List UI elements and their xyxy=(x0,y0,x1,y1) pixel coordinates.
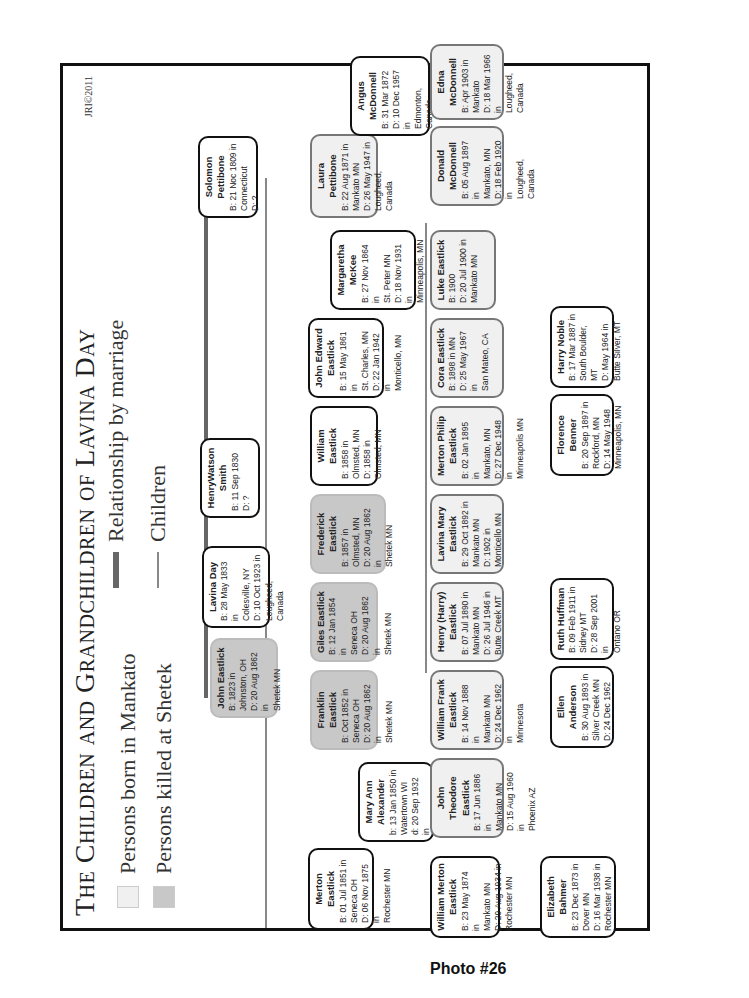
family-tree-canvas: The Children and Grandchildren of Lavina… xyxy=(0,0,749,998)
person-william-frank-eastlick[interactable]: William Frank EastlickB: 14 Nov 1888 inM… xyxy=(430,670,504,750)
person-florence-benner[interactable]: Florence BennerB: 20 Sep 1897 inRockford… xyxy=(550,394,614,476)
person-merton-eastlick[interactable]: Merton EastlickB: 01 Jul 1851 inSeneca O… xyxy=(308,848,374,930)
credit: JRI©2011 xyxy=(83,76,94,117)
person-lavina-day[interactable]: Lavina DayB: 28 May 1833 inColesville, N… xyxy=(202,546,270,628)
legend-killed-shetek: Persons killed at Shetek xyxy=(151,663,177,908)
person-henry-watson-smith[interactable]: HenryWatson SmithB: 11 Sep 1830D: ? xyxy=(200,438,260,518)
person-frederick-eastlick[interactable]: Frederick EastlickB: 1857 inOlmsted, MND… xyxy=(310,494,386,574)
person-harry-noble[interactable]: Harry NobleB: 17 Mar 1887 inSouth Boulde… xyxy=(550,306,614,388)
person-angus-mcdonnell[interactable]: Angus McDonnellB: 31 Mar 1872D: 10 Dec 1… xyxy=(350,56,430,136)
person-donald-mcdonnell[interactable]: Donald McDonnellB: 05 Aug 1897 inMankato… xyxy=(430,126,504,206)
person-lavina-mary-eastlick[interactable]: Lavina Mary EastlickB: 29 Oct 1892 inMan… xyxy=(430,494,504,574)
person-john-edward-eastlick[interactable]: John Edward EastlickB: 15 May 1861 inSt.… xyxy=(308,318,384,398)
legend-marriage: Relationship by marriage xyxy=(103,320,129,588)
legend-label: Persons killed at Shetek xyxy=(151,663,177,874)
person-luke-eastlick[interactable]: Luke EastlickB: 1900D: 20 Jul 1900 inMan… xyxy=(430,230,496,310)
person-william-merton-eastlick[interactable]: William Merton EastlickB: 23 May 1874 in… xyxy=(430,856,500,938)
person-laura-pettibone[interactable]: Laura PettiboneB: 22 Aug 1871 inMankato … xyxy=(310,134,378,218)
legend-label: Children xyxy=(145,465,171,542)
person-edna-mcdonnell[interactable]: Edna McDonnellB: Apr 1903 inMankatoD: 18… xyxy=(430,44,504,120)
marriage-line-icon xyxy=(113,552,119,588)
person-margaretha-mckee[interactable]: Margaretha McKeeB: 27 Nov 1864 inSt. Pet… xyxy=(330,230,416,310)
person-elizabeth-bahmer[interactable]: Elizabeth BahmerB: 23 Dec 1873 inDover M… xyxy=(540,856,616,938)
person-merton-philip-eastlick[interactable]: Merton Philip EastlickB: 02 Jan 1895 inM… xyxy=(430,406,504,486)
person-mary-ann-alexander[interactable]: Mary Ann Alexanderb: 13 Jan 1850 inWater… xyxy=(358,762,434,842)
person-franklin-eastlick[interactable]: Franklin EastlickB: Oct 1852 inSeneca OH… xyxy=(310,670,378,750)
person-william-eastlick[interactable]: William EastlickB: 1858 inOlmsted, MND: … xyxy=(310,406,378,486)
legend-label: Persons born in Mankato xyxy=(115,653,141,874)
person-ruth-huffman[interactable]: Ruth HuffmanB: 09 Feb 1911 inSidney MTD:… xyxy=(550,578,614,660)
person-john-eastlick[interactable]: John EastlickB: 1823 inJohnston, OHD: 20… xyxy=(210,638,278,718)
person-ellen-anderson[interactable]: Ellen AndersonB: 30 Aug 1893 inSilver Cr… xyxy=(550,666,614,748)
legend-label: Relationship by marriage xyxy=(103,320,129,542)
person-giles-eastlick[interactable]: Giles EastlickB: 12 Jan 1854 inSeneca OH… xyxy=(310,582,378,662)
photo-caption: Photo #26 xyxy=(430,960,506,978)
mankato-swatch-icon xyxy=(117,886,139,908)
legend-children: Children xyxy=(145,465,171,588)
children-line-icon xyxy=(157,552,159,588)
person-cora-eastlick[interactable]: Cora EastlickB: 1898 in MND: 25 May 1967… xyxy=(430,318,504,398)
shetek-swatch-icon xyxy=(153,886,175,908)
legend-born-mankato: Persons born in Mankato xyxy=(115,653,141,908)
diagram-title: The Children and Grandchildren of Lavina… xyxy=(69,329,101,916)
person-solomon-pettibone[interactable]: Solomon PettiboneB: 21 Noc 1809 inConnec… xyxy=(198,136,258,218)
person-henry-harry-eastlick[interactable]: Henry (Harry) EastlickB: 07 Jul 1890 inM… xyxy=(430,582,504,662)
person-john-theodore-eastlick[interactable]: John Theodore EastlickB: 17 Jun 1886 inM… xyxy=(430,758,504,838)
